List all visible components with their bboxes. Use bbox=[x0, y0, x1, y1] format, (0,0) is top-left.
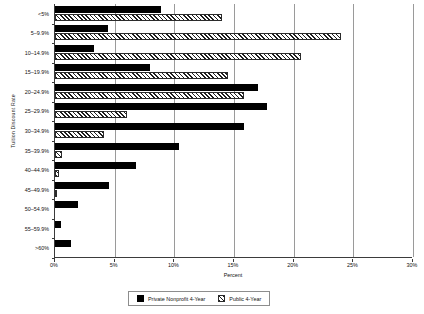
legend-item[interactable]: Private Nonprofit 4-Year bbox=[137, 295, 205, 302]
bar-private-nonprofit bbox=[55, 6, 161, 13]
category-label: 15–19.9% bbox=[25, 69, 49, 75]
bar-public bbox=[55, 190, 57, 197]
x-axis-tick-label: 5% bbox=[110, 262, 118, 268]
bar-group bbox=[55, 123, 412, 143]
hatched-swatch bbox=[218, 295, 225, 302]
category-label: 50–54.9% bbox=[25, 206, 49, 212]
y-axis-tick bbox=[52, 63, 55, 64]
tuition-discount-rate-bar-chart: Tuition Discount Rate <5%5–9.9%10–14.9%1… bbox=[0, 0, 424, 314]
bar-public bbox=[55, 111, 127, 118]
bar-group bbox=[55, 64, 412, 84]
legend-label: Public 4-Year bbox=[229, 296, 261, 302]
bar-private-nonprofit bbox=[55, 45, 94, 52]
bar-public bbox=[55, 33, 341, 40]
legend-item[interactable]: Public 4-Year bbox=[218, 295, 261, 302]
bar-group bbox=[55, 201, 412, 221]
bar-private-nonprofit bbox=[55, 25, 108, 32]
y-axis-tick bbox=[52, 160, 55, 161]
bar-private-nonprofit bbox=[55, 182, 109, 189]
bar-group bbox=[55, 240, 412, 260]
y-axis-tick bbox=[52, 82, 55, 83]
bar-public bbox=[55, 53, 301, 60]
bar-group bbox=[55, 84, 412, 104]
bar-private-nonprofit bbox=[55, 143, 179, 150]
category-label: <5% bbox=[38, 11, 49, 17]
category-label: 55–59.9% bbox=[25, 226, 49, 232]
y-axis-tick bbox=[52, 238, 55, 239]
bar-group bbox=[55, 221, 412, 241]
legend-label: Private Nonprofit 4-Year bbox=[148, 296, 205, 302]
category-label: 40–44.9% bbox=[25, 167, 49, 173]
plot-area bbox=[54, 4, 412, 258]
bar-public bbox=[55, 14, 222, 21]
bar-private-nonprofit bbox=[55, 162, 136, 169]
category-label: 30–34.9% bbox=[25, 128, 49, 134]
chart-legend: Private Nonprofit 4-YearPublic 4-Year bbox=[128, 291, 270, 306]
x-axis-title: Percent bbox=[54, 272, 412, 278]
bar-group bbox=[55, 45, 412, 65]
bar-private-nonprofit bbox=[55, 221, 61, 228]
x-axis-tick-label: 20% bbox=[287, 262, 298, 268]
x-axis-tick-label: 15% bbox=[228, 262, 239, 268]
bar-public bbox=[55, 151, 62, 158]
bar-private-nonprofit bbox=[55, 64, 150, 71]
y-axis-tick bbox=[52, 121, 55, 122]
y-axis-tick bbox=[52, 219, 55, 220]
category-axis-labels: <5%5–9.9%10–14.9%15–19.9%20–24.9%25–29.9… bbox=[0, 4, 52, 258]
bar-group bbox=[55, 182, 412, 202]
bar-private-nonprofit bbox=[55, 103, 267, 110]
bar-public bbox=[55, 131, 104, 138]
bar-group bbox=[55, 25, 412, 45]
category-label: 10–14.9% bbox=[25, 50, 49, 56]
y-axis-tick bbox=[52, 199, 55, 200]
y-axis-tick bbox=[52, 24, 55, 25]
solid-black-swatch bbox=[137, 295, 144, 302]
y-axis-tick bbox=[52, 43, 55, 44]
bar-private-nonprofit bbox=[55, 240, 71, 247]
bar-private-nonprofit bbox=[55, 201, 78, 208]
y-axis-tick bbox=[52, 141, 55, 142]
category-label: >60% bbox=[35, 245, 49, 251]
bar-public bbox=[55, 170, 59, 177]
y-axis-tick bbox=[52, 102, 55, 103]
bar-group bbox=[55, 162, 412, 182]
bar-public bbox=[55, 72, 228, 79]
x-axis-tick-label: 25% bbox=[347, 262, 358, 268]
x-axis-ticks: 0%5%10%15%20%25%30% bbox=[54, 259, 412, 271]
y-axis-tick bbox=[52, 180, 55, 181]
x-axis-tick-label: 30% bbox=[407, 262, 418, 268]
x-axis-tick-label: 10% bbox=[168, 262, 179, 268]
category-label: 20–24.9% bbox=[25, 89, 49, 95]
bar-group bbox=[55, 103, 412, 123]
gridline-30pct bbox=[413, 4, 414, 257]
bar-group bbox=[55, 143, 412, 163]
category-label: 5–9.9% bbox=[31, 30, 49, 36]
category-label: 35–39.9% bbox=[25, 148, 49, 154]
bar-private-nonprofit bbox=[55, 84, 258, 91]
bar-private-nonprofit bbox=[55, 123, 244, 130]
category-label: 45–49.9% bbox=[25, 187, 49, 193]
bar-group bbox=[55, 6, 412, 26]
x-axis-tick-label: 0% bbox=[50, 262, 58, 268]
bar-public bbox=[55, 92, 244, 99]
category-label: 25–29.9% bbox=[25, 108, 49, 114]
